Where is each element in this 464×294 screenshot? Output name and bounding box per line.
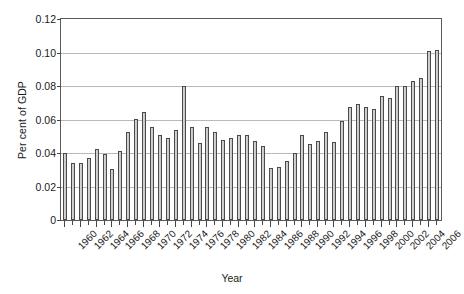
bar (166, 138, 170, 220)
bar (158, 135, 162, 220)
x-axis-tick-mark (214, 221, 215, 225)
x-axis-tick-mark (175, 221, 176, 227)
bar (126, 132, 130, 220)
bar (332, 142, 336, 220)
bar (245, 135, 249, 220)
bar (411, 81, 415, 220)
x-axis-tick-mark (88, 221, 89, 225)
bar (221, 140, 225, 220)
x-axis-tick-mark (294, 221, 295, 225)
bar (150, 127, 154, 220)
bar (348, 107, 352, 220)
y-axis-tick-label: 0.06 (7, 115, 61, 125)
y-axis-tick-label: 0.08 (7, 81, 61, 91)
x-axis-tick-mark (262, 221, 263, 225)
x-axis-tick-mark (183, 221, 184, 225)
bar (316, 141, 320, 220)
y-axis-tick-label: 0.12 (7, 14, 61, 24)
x-axis-tick-mark (191, 221, 192, 227)
y-axis-tick-label: 0.04 (7, 148, 61, 158)
x-axis-tick-mark (151, 221, 152, 225)
x-axis-tick-mark (278, 221, 279, 225)
x-axis-tick-mark (238, 221, 239, 227)
bar (198, 143, 202, 220)
x-axis-tick-mark (301, 221, 302, 227)
x-axis-tick-mark (72, 221, 73, 225)
x-axis-tick-mark (254, 221, 255, 227)
x-axis-title: Year (0, 272, 464, 284)
bar-series (61, 19, 441, 220)
bar (103, 154, 107, 220)
x-axis-tick-mark (119, 221, 120, 225)
x-axis-tick-mark (80, 221, 81, 227)
x-axis-tick-mark (111, 221, 112, 227)
bar (364, 107, 368, 220)
x-axis-tick-mark (199, 221, 200, 225)
x-axis-tick-mark (206, 221, 207, 227)
bar (174, 130, 178, 220)
x-axis-tick-mark (104, 221, 105, 225)
bar (308, 144, 312, 220)
y-axis-tick-label: 0.10 (7, 48, 61, 58)
x-axis-tick-mark (325, 221, 326, 225)
bar (372, 109, 376, 220)
bar (300, 135, 304, 220)
x-axis-tick-mark (412, 221, 413, 227)
x-axis-tick-mark (365, 221, 366, 227)
x-axis-tick-mark (230, 221, 231, 225)
x-axis-tick-mark (428, 221, 429, 227)
x-axis-tick-mark (436, 221, 437, 225)
bar (261, 146, 265, 220)
bar (340, 121, 344, 220)
x-axis-tick-mark (309, 221, 310, 225)
bar (182, 86, 186, 220)
bar (285, 161, 289, 220)
x-axis-tick-mark (143, 221, 144, 227)
x-axis-tick-mark (127, 221, 128, 227)
x-axis-tick-mark (389, 221, 390, 225)
bar (237, 135, 241, 220)
x-axis-tick-mark (341, 221, 342, 225)
x-axis-tick-mark (270, 221, 271, 227)
bar (205, 127, 209, 220)
bar (134, 119, 138, 220)
x-axis-tick-mark (373, 221, 374, 225)
x-axis-tick-mark (286, 221, 287, 227)
x-axis-tick-labels: 1960196219641966196819701972197419761978… (60, 228, 442, 274)
bar (356, 104, 360, 220)
x-axis-tick-mark (64, 221, 65, 227)
bar (253, 141, 257, 220)
x-axis-tick-mark (333, 221, 334, 227)
bar (293, 153, 297, 220)
x-axis-tick-mark (396, 221, 397, 227)
bar (435, 50, 439, 220)
bar (71, 163, 75, 220)
bar (427, 51, 431, 220)
x-axis-tick-mark (167, 221, 168, 225)
bar (118, 151, 122, 220)
x-axis-tick-mark (317, 221, 318, 227)
bar (403, 86, 407, 220)
bar (213, 132, 217, 220)
x-axis-tick-mark (404, 221, 405, 225)
x-axis-tick-mark (222, 221, 223, 227)
x-axis-tick-mark (246, 221, 247, 225)
bar (277, 167, 281, 220)
bar (110, 169, 114, 220)
bar (190, 127, 194, 220)
x-axis-tick-mark (420, 221, 421, 225)
bar (395, 86, 399, 220)
bar (324, 132, 328, 220)
y-axis-tick-label: 0 (7, 215, 61, 225)
y-axis-tick-label: 0.02 (7, 182, 61, 192)
x-axis-tick-mark (357, 221, 358, 225)
bar (229, 138, 233, 220)
x-axis-tick-mark (96, 221, 97, 227)
bar (87, 158, 91, 220)
bar (419, 78, 423, 220)
plot-area: 00.020.040.060.080.100.12 (60, 18, 442, 221)
x-axis-tick-mark (349, 221, 350, 227)
bar (269, 168, 273, 220)
bar (63, 153, 67, 220)
x-axis-tick-mark (135, 221, 136, 225)
